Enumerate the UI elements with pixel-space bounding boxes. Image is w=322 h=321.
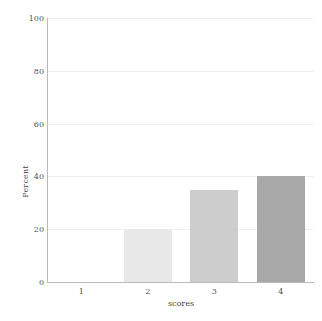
y-tick-label: 60 [4,119,44,128]
x-axis-title: scores [48,299,314,308]
gridline [48,71,314,72]
x-tick-label: 4 [278,287,283,296]
bar [190,190,238,282]
plot-area [48,18,314,282]
y-tick-label: 40 [4,172,44,181]
y-tick-label: 0 [4,278,44,287]
y-tick-label: 80 [4,66,44,75]
bar [257,176,305,282]
y-tick-label: 20 [4,225,44,234]
gridline [48,124,314,125]
x-tick-label: 3 [212,287,217,296]
bar [124,229,172,282]
y-tick-label: 100 [4,14,44,23]
y-axis-ticks: 020406080100 [0,18,44,282]
bar-chart: Percent 020406080100 1234 scores [0,0,322,321]
gridline [48,18,314,19]
x-tick-label: 1 [79,287,84,296]
x-tick-label: 2 [145,287,150,296]
